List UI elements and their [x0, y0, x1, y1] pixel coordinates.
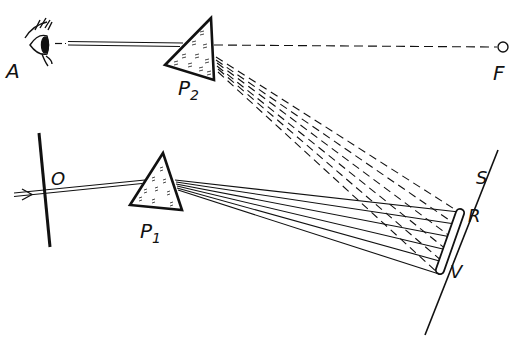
focus-point-f: [498, 42, 508, 52]
label-p1: P1: [140, 219, 161, 246]
label-r: R: [468, 205, 481, 226]
eye-icon: [25, 18, 52, 66]
label-o: O: [51, 168, 65, 189]
dashed-line-to-f: [214, 45, 497, 47]
beam-eye-to-p2: [68, 42, 183, 47]
dispersed-rays-from-p1: [175, 180, 459, 274]
label-eye-a: A: [4, 59, 20, 83]
optics-diagram: A F P2: [0, 0, 512, 345]
incoming-beam: [14, 180, 145, 200]
label-v: V: [450, 261, 464, 282]
label-s: S: [476, 167, 487, 188]
prism-p2: [165, 18, 214, 80]
label-f: F: [493, 61, 505, 85]
prism-p1: [130, 153, 182, 210]
label-p2: P2: [178, 76, 199, 103]
